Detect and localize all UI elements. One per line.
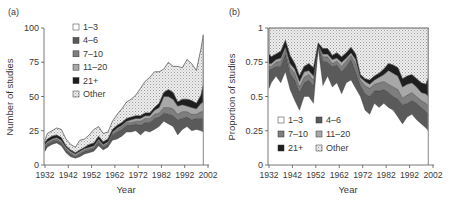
legend-label: 11–20 <box>83 62 107 72</box>
legend-swatch <box>73 51 79 57</box>
panel-b-y-axis-title: Proportion of studies <box>226 53 237 140</box>
x-tick-label: 1982 <box>377 170 396 180</box>
panel-a-legend: 1–34–67–1011–2021+Other <box>73 22 107 99</box>
legend-item-4-to-6: 4–6 <box>73 35 98 45</box>
legend-item-21-plus: 21+ <box>73 76 98 86</box>
legend-label: 4–6 <box>326 115 341 125</box>
panel-a-number-of-studies: (a) 025507510019321942195219621972198219… <box>4 7 218 195</box>
legend-item-11-to-20: 11–20 <box>73 62 107 72</box>
legend-label: Other <box>83 89 106 99</box>
y-tick-label: 25 <box>29 126 39 136</box>
legend-label: 4–6 <box>83 35 98 45</box>
panel-a-label: (a) <box>8 7 19 17</box>
legend-label: 7–10 <box>83 49 103 59</box>
legend-label: 1–3 <box>288 115 303 125</box>
x-tick-label: 2002 <box>198 170 217 180</box>
legend-swatch <box>278 131 284 137</box>
legend-item-other: Other <box>73 89 106 99</box>
y-tick-label: 100 <box>24 23 39 33</box>
legend-item-7-to-10: 7–10 <box>73 49 103 59</box>
legend-swatch <box>316 145 322 151</box>
y-tick-label: 1 <box>258 23 263 33</box>
panel-b-label: (b) <box>229 7 240 17</box>
x-tick-label: 1972 <box>129 170 148 180</box>
legend-swatch <box>73 37 79 43</box>
legend-label: 1–3 <box>83 22 98 32</box>
figure: (a) 025507510019321942195219621972198219… <box>0 0 452 207</box>
y-tick-label: 0.75 <box>245 57 263 67</box>
panel-a-stacked-areas <box>45 35 203 165</box>
legend-swatch <box>73 64 79 70</box>
y-tick-label: 50 <box>29 92 39 102</box>
legend-label: 11–20 <box>326 129 350 139</box>
legend-swatch <box>278 117 284 123</box>
x-tick-label: 1982 <box>152 170 171 180</box>
x-tick-label: 2002 <box>423 170 442 180</box>
y-tick-label: 0.25 <box>245 126 263 136</box>
x-tick-label: 1962 <box>330 170 349 180</box>
legend-label: 21+ <box>288 143 303 153</box>
x-tick-label: 1952 <box>82 170 101 180</box>
x-tick-label: 1942 <box>283 170 302 180</box>
y-tick-label: 75 <box>29 57 39 67</box>
legend-swatch <box>316 131 322 137</box>
y-tick-label: 0 <box>258 160 263 170</box>
x-tick-label: 1962 <box>105 170 124 180</box>
legend-item-1-to-3: 1–3 <box>73 22 98 32</box>
legend-swatch <box>73 91 79 97</box>
panel-a-y-axis-title: Number of studies <box>4 58 15 135</box>
legend-swatch <box>73 78 79 84</box>
y-tick-label: 0 <box>34 160 39 170</box>
panel-b-x-axis-title: Year <box>338 184 357 195</box>
legend-label: 7–10 <box>288 129 308 139</box>
legend-label: 21+ <box>83 76 98 86</box>
legend-swatch <box>73 24 79 30</box>
x-tick-label: 1992 <box>400 170 419 180</box>
legend-swatch <box>278 145 284 151</box>
legend-swatch <box>316 117 322 123</box>
panel-a-x-axis-title: Year <box>116 184 135 195</box>
y-tick-label: 0.5 <box>250 92 263 102</box>
legend-label: Other <box>326 143 349 153</box>
x-tick-label: 1992 <box>175 170 194 180</box>
x-tick-label: 1932 <box>259 170 278 180</box>
panel-b-proportion-of-studies: (b) 00.250.50.75119321942195219621972198… <box>226 7 443 195</box>
x-tick-label: 1932 <box>35 170 54 180</box>
x-tick-label: 1972 <box>353 170 372 180</box>
x-tick-label: 1942 <box>59 170 78 180</box>
x-tick-label: 1952 <box>306 170 325 180</box>
